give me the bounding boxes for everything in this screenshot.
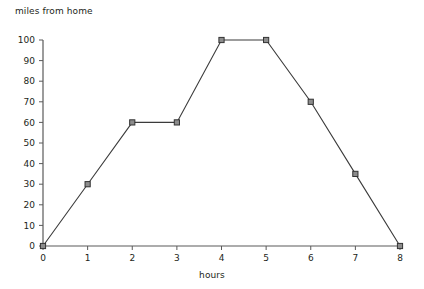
y-tick-label: 40	[24, 159, 36, 169]
x-axis-ticks: 012345678	[40, 246, 403, 263]
chart-container: miles from home 0102030405060708090100 0…	[0, 0, 424, 289]
y-tick-label: 0	[29, 241, 35, 251]
line-chart-plot: 0102030405060708090100 012345678	[0, 0, 424, 289]
x-tick-label: 5	[263, 253, 269, 263]
x-tick-label: 3	[174, 253, 180, 263]
data-point-marker	[219, 37, 224, 42]
x-tick-label: 4	[219, 253, 225, 263]
data-point-marker	[353, 171, 358, 176]
data-point-marker	[85, 182, 90, 187]
x-tick-label: 2	[129, 253, 135, 263]
data-series-line	[43, 40, 400, 246]
y-tick-label: 80	[24, 76, 36, 86]
y-tick-label: 60	[24, 118, 36, 128]
y-tick-label: 50	[24, 138, 36, 148]
y-axis-ticks: 0102030405060708090100	[18, 35, 43, 251]
y-tick-label: 30	[24, 179, 36, 189]
x-tick-label: 8	[397, 253, 403, 263]
data-point-marker	[397, 243, 402, 248]
y-tick-label: 10	[24, 221, 36, 231]
data-point-marker	[308, 99, 313, 104]
x-tick-label: 7	[353, 253, 359, 263]
x-tick-label: 6	[308, 253, 314, 263]
data-point-marker	[130, 120, 135, 125]
data-point-markers	[40, 37, 402, 248]
x-tick-label: 1	[85, 253, 91, 263]
y-tick-label: 70	[24, 97, 36, 107]
y-tick-label: 20	[24, 200, 36, 210]
data-point-marker	[174, 120, 179, 125]
data-point-marker	[40, 243, 45, 248]
data-point-marker	[264, 37, 269, 42]
y-tick-label: 90	[24, 56, 36, 66]
x-axis-title: hours	[0, 270, 424, 280]
y-tick-label: 100	[18, 35, 35, 45]
x-tick-label: 0	[40, 253, 46, 263]
